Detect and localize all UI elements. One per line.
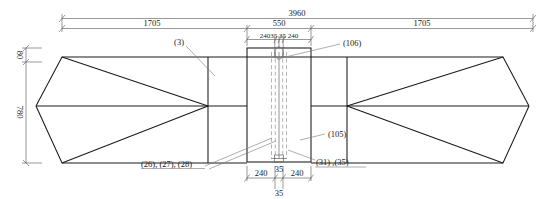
dim-center-width-label: 550 (273, 18, 286, 28)
dim-height-top-label: 80 (15, 51, 25, 60)
left-wing-outline (36, 57, 247, 163)
central-column-dashed-lines (272, 52, 287, 159)
dim-overall-label: 3960 (289, 8, 306, 18)
callout-3-label: (3) (174, 37, 184, 47)
dim-bottom-below-label: 35 (275, 188, 284, 198)
dim-right-span-label: 1705 (414, 18, 431, 28)
elevation-drawing: 3960 1705 550 1705 24035 35 240 (0, 0, 543, 199)
callout-105-label: (105) (328, 129, 347, 139)
panel-division-lines (208, 57, 347, 163)
drawing-canvas: 3960 1705 550 1705 24035 35 240 (0, 0, 543, 199)
callout-3-leader (186, 46, 215, 76)
dimension-height-780 (22, 62, 42, 166)
callout-262728-label: (26), (27), (28) (141, 159, 192, 169)
dim-bottom-right-label: 240 (291, 168, 304, 178)
dim-bottom-left-label: 240 (255, 168, 268, 178)
dim-left-span-label: 1705 (144, 18, 161, 28)
dim-bottom-mid-label: 35 (275, 164, 284, 174)
right-wing-outline (311, 57, 529, 163)
dim-height-main-label: 780 (15, 106, 25, 119)
callout-105-leader (300, 134, 325, 140)
callout-3135-label: (31) ,(35) (316, 157, 349, 167)
dim-center-breakdown-label: 24035 35 240 (260, 32, 299, 40)
callout-106-label: (106) (343, 38, 362, 48)
dimension-height-80 (22, 45, 42, 65)
